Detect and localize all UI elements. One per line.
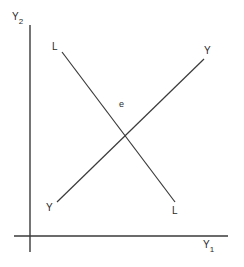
y-line	[57, 59, 204, 202]
l-line	[62, 52, 175, 202]
y1-axis-label: Y1	[203, 239, 215, 254]
y-line-start-label: Y	[46, 202, 53, 213]
l-line-start-label: L	[52, 41, 58, 52]
equilibrium-label: e	[119, 99, 124, 109]
y-line-end-label: Y	[204, 45, 211, 56]
diagram: Y2 Y1 L L Y Y e	[0, 0, 244, 267]
y2-axis-label: Y2	[12, 11, 24, 26]
l-line-end-label: L	[172, 205, 178, 216]
